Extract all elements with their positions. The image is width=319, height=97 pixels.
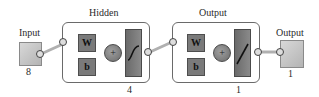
hidden-bias-block: b (78, 58, 96, 76)
output-weight-block: W (187, 34, 205, 52)
connection-wires (0, 0, 319, 97)
sigmoid-icon (126, 30, 141, 76)
output-sum-node: + (213, 44, 231, 62)
hidden-weight-block: W (78, 34, 96, 52)
hidden-output-node (144, 48, 152, 56)
input-port-node (36, 50, 44, 58)
output-layer-title: Output (199, 7, 227, 18)
output-port-node (276, 48, 284, 56)
output-layer-size: 1 (236, 84, 241, 95)
output-size: 1 (288, 68, 293, 79)
output-layer-input-node (169, 38, 177, 46)
output-label: Output (276, 27, 304, 38)
hidden-layer-size: 4 (127, 84, 132, 95)
output-layer-output-node (254, 48, 262, 56)
linear-icon (235, 30, 250, 76)
hidden-layer-title: Hidden (89, 7, 118, 18)
input-label: Input (19, 27, 40, 38)
output-transfer-block (234, 29, 251, 77)
hidden-transfer-block (125, 29, 142, 77)
hidden-sum-node: + (104, 44, 122, 62)
output-bias-block: b (187, 58, 205, 76)
output-block (280, 40, 304, 68)
hidden-input-node (59, 38, 67, 46)
input-size: 8 (26, 66, 31, 77)
